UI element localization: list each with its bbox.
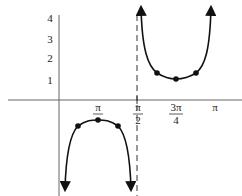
data-point xyxy=(95,117,101,123)
svg-text:π: π xyxy=(135,101,141,113)
svg-text:3π: 3π xyxy=(170,101,182,113)
x-tick-pi: π xyxy=(212,101,218,113)
y-tick-1: 1 xyxy=(47,74,53,86)
y-tick-2: 2 xyxy=(47,52,53,64)
y-tick-3: 3 xyxy=(47,33,53,45)
data-point xyxy=(193,70,199,76)
x-tick-pi-over-4: π xyxy=(93,101,103,114)
chart: 4 3 2 1 π π 2 3π 4 π xyxy=(0,0,242,196)
data-point xyxy=(154,70,160,76)
upper-branch-curve xyxy=(141,7,211,79)
y-tick-4: 4 xyxy=(47,12,53,24)
svg-text:4: 4 xyxy=(173,114,179,126)
data-point xyxy=(75,123,81,129)
lower-branch-curve xyxy=(65,120,131,190)
data-point xyxy=(173,76,179,82)
data-point xyxy=(115,123,121,129)
svg-text:π: π xyxy=(95,101,101,113)
svg-text:2: 2 xyxy=(135,114,141,126)
x-tick-3pi-over-4: 3π 4 xyxy=(169,101,183,126)
